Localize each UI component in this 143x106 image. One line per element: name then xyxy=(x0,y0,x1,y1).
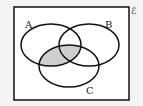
label-a: A xyxy=(24,19,33,30)
venn-diagram: A B C ℰ xyxy=(0,0,143,106)
label-b: B xyxy=(105,19,112,30)
universal-label: ℰ xyxy=(131,6,137,16)
label-c: C xyxy=(86,85,94,96)
